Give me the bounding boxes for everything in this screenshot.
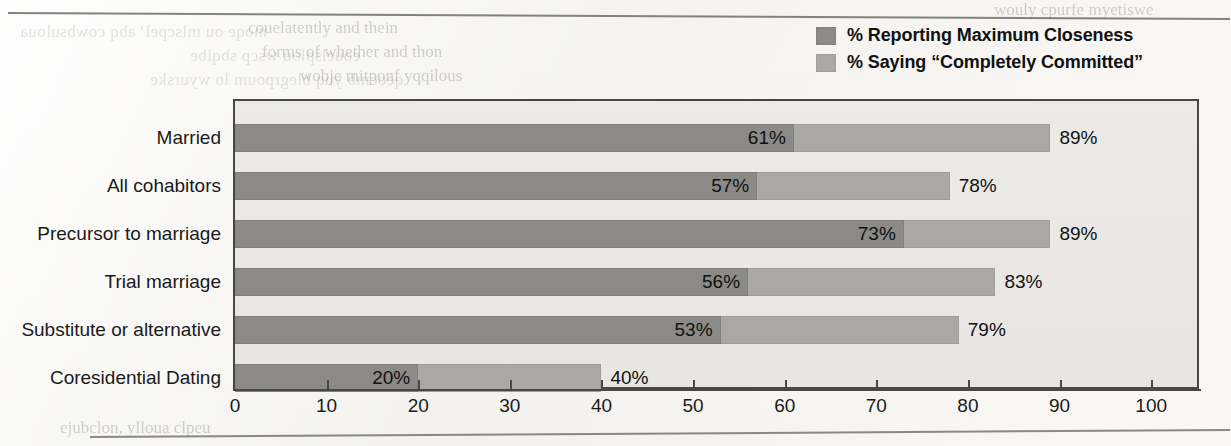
y-axis-category-label: Substitute or alternative xyxy=(21,316,221,344)
bar-value-label-closeness: 57% xyxy=(711,172,757,200)
ghost-bleed-text: moqe ou mlscpel’ abq cowbsuloua xyxy=(20,22,267,42)
bar-closeness xyxy=(235,220,904,248)
chart-plot-inner: 61%89%57%78%73%89%56%83%53%79%20%40% xyxy=(235,101,1197,387)
legend-swatch-committed xyxy=(816,54,836,72)
legend-item-committed: % Saying “Completely Committed” xyxy=(816,49,1143,76)
legend-label-closeness: % Reporting Maximum Closeness xyxy=(847,25,1133,46)
x-axis-tick-label: 90 xyxy=(1049,395,1070,417)
x-axis-tick xyxy=(876,380,878,389)
x-axis-tick xyxy=(693,380,695,389)
bar-row: 56%83% xyxy=(235,268,1197,296)
x-axis-tick-label: 70 xyxy=(866,395,887,417)
x-axis-tick-label: 40 xyxy=(591,395,612,417)
ghost-bleed-text: couelatently and thein xyxy=(248,18,398,38)
bar-value-label-closeness: 53% xyxy=(675,316,721,344)
y-axis-category-label: Coresidential Dating xyxy=(50,364,221,392)
bar-value-label-committed: 79% xyxy=(959,316,1006,344)
x-axis-tick-label: 20 xyxy=(408,395,429,417)
y-axis-category-label: Married xyxy=(157,124,221,152)
y-axis-category-label: Precursor to marriage xyxy=(37,220,221,248)
bar-closeness xyxy=(235,172,757,200)
x-axis-tick-label: 10 xyxy=(316,395,337,417)
x-axis-tick-label: 60 xyxy=(774,395,795,417)
chart-legend: % Reporting Maximum Closeness % Saying “… xyxy=(816,22,1143,76)
bar-row: 57%78% xyxy=(235,172,1197,200)
y-axis-category-label: All cohabitors xyxy=(107,172,221,200)
x-axis-tick-label: 80 xyxy=(957,395,978,417)
bar-value-label-committed: 83% xyxy=(995,268,1042,296)
x-axis-tick-label: 50 xyxy=(683,395,704,417)
bar-value-label-closeness: 73% xyxy=(858,220,904,248)
x-axis-tick xyxy=(510,380,512,389)
chart-plot-area: 61%89%57%78%73%89%56%83%53%79%20%40% xyxy=(233,99,1199,389)
bar-closeness xyxy=(235,316,721,344)
x-axis-tick xyxy=(327,380,329,389)
x-axis-tick xyxy=(1151,380,1153,389)
bar-value-label-closeness: 20% xyxy=(372,364,418,392)
x-axis-tick-label: 30 xyxy=(499,395,520,417)
x-axis-tick-label: 100 xyxy=(1135,395,1167,417)
legend-label-committed: % Saying “Completely Committed” xyxy=(847,52,1143,73)
x-axis-tick xyxy=(418,380,420,389)
bar-row: 61%89% xyxy=(235,124,1197,152)
x-axis-tick xyxy=(601,380,603,389)
bar-row: 53%79% xyxy=(235,316,1197,344)
ghost-bleed-text: wobje mitponf yqqilous xyxy=(300,66,462,86)
x-axis-tick xyxy=(968,380,970,389)
bar-value-label-committed: 89% xyxy=(1050,220,1097,248)
x-axis-tick-label: 0 xyxy=(230,395,241,417)
ghost-bleed-text: forms of whether and thon xyxy=(262,42,442,62)
bar-row: 20%40% xyxy=(235,364,1197,392)
bar-row: 73%89% xyxy=(235,220,1197,248)
bar-value-label-closeness: 61% xyxy=(748,124,794,152)
x-axis-tick xyxy=(1060,380,1062,389)
legend-item-closeness: % Reporting Maximum Closeness xyxy=(816,22,1143,49)
y-axis-category-label: Trial marriage xyxy=(105,268,222,296)
bar-value-label-committed: 40% xyxy=(601,364,648,392)
bar-value-label-closeness: 56% xyxy=(702,268,748,296)
x-axis-line xyxy=(233,389,1201,391)
bar-closeness xyxy=(235,268,748,296)
legend-swatch-closeness xyxy=(816,27,836,45)
bar-value-label-committed: 89% xyxy=(1050,124,1097,152)
bar-closeness xyxy=(235,124,794,152)
x-axis-tick xyxy=(785,380,787,389)
bar-value-label-committed: 78% xyxy=(950,172,997,200)
x-axis: 0102030405060708090100 xyxy=(233,389,1201,439)
